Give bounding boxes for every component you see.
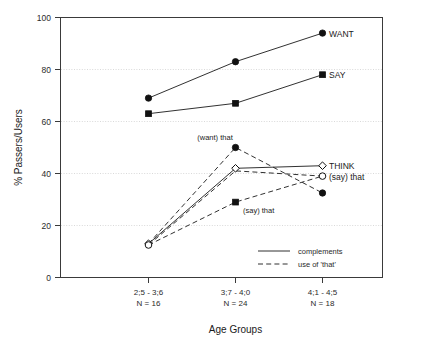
series-label-think: THINK — [329, 161, 355, 171]
series-markers-think-that — [145, 173, 326, 249]
series-label-think-that: (say) that — [329, 172, 365, 182]
series-line-want — [149, 33, 323, 98]
plot-frame — [61, 18, 383, 278]
legend-label-complements: complements — [298, 247, 343, 256]
series-markers-say — [146, 72, 326, 117]
series-markers-want-that — [232, 144, 325, 196]
series-markers-say-that — [233, 199, 239, 205]
y-tick-label: 40 — [42, 169, 52, 179]
gridlines — [61, 70, 382, 226]
chart-legend: complements use of 'that' — [258, 247, 343, 269]
x-axis-ticks — [149, 278, 323, 284]
y-tick-label: 0 — [46, 273, 51, 283]
x-tick-label: 2;5 - 3;6 — [134, 288, 164, 297]
x-tick-sublabel: N = 18 — [311, 299, 335, 308]
series-line-want-that — [149, 148, 323, 244]
y-tick-label: 80 — [42, 65, 52, 75]
x-tick-label: 4;1 - 4;5 — [308, 288, 338, 297]
x-axis-category-labels: 2;5 - 3;6 N = 16 3;7 - 4;0 N = 24 4;1 - … — [134, 288, 338, 308]
chart-figure: 100 80 60 40 20 0 2;5 - 3;6 N = 16 3;7 -… — [0, 0, 423, 348]
annotation-say-that: (say) that — [243, 206, 275, 215]
line-chart-svg: 100 80 60 40 20 0 2;5 - 3;6 N = 16 3;7 -… — [0, 0, 423, 348]
annotation-want-that: (want) that — [197, 133, 233, 142]
x-axis-title: Age Groups — [209, 324, 262, 335]
y-axis-title: % Passers/Users — [13, 109, 24, 186]
legend-label-use-of-that: use of 'that' — [298, 260, 336, 269]
y-tick-label: 60 — [42, 117, 52, 127]
series-line-say — [149, 75, 323, 114]
series-line-say-that — [149, 176, 323, 245]
series-label-want: WANT — [329, 29, 354, 39]
x-tick-sublabel: N = 16 — [137, 299, 161, 308]
y-tick-label: 20 — [42, 221, 52, 231]
x-tick-sublabel: N = 24 — [224, 299, 248, 308]
x-tick-label: 3;7 - 4;0 — [221, 288, 251, 297]
y-axis-tick-labels: 100 80 60 40 20 0 — [37, 13, 51, 283]
y-tick-label: 100 — [37, 13, 51, 23]
series-label-say: SAY — [329, 70, 346, 80]
series-line-think-that — [149, 171, 323, 245]
